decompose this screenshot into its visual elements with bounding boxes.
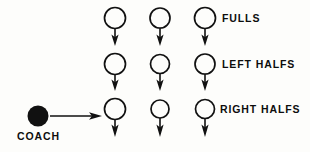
row-fulls <box>105 8 216 47</box>
player-circle[interactable] <box>195 8 216 29</box>
coach-label: COACH <box>17 131 60 142</box>
diagram-canvas: FULLS LEFT HALFS RIGHT HALFS COACH <box>0 0 310 152</box>
coach-dot[interactable] <box>28 106 49 127</box>
movement-arrow-down <box>156 28 163 46</box>
player-circle[interactable] <box>195 54 215 74</box>
coach-direction-arrow <box>50 112 102 120</box>
player-circle[interactable] <box>151 55 170 74</box>
row-right-halfs <box>105 99 215 138</box>
player-circle[interactable] <box>196 100 215 119</box>
movement-arrow-down <box>156 74 163 91</box>
player-circle[interactable] <box>105 8 126 29</box>
player-circle[interactable] <box>105 54 126 75</box>
row-label-left-halfs: LEFT HALFS <box>222 59 295 70</box>
row-label-fulls: FULLS <box>222 13 260 24</box>
row-label-right-halfs: RIGHT HALFS <box>220 104 300 115</box>
player-circle[interactable] <box>105 99 126 120</box>
player-circle[interactable] <box>150 8 170 28</box>
coach-marker-group <box>28 106 103 127</box>
player-circle[interactable] <box>151 100 169 118</box>
movement-arrow-down <box>111 75 118 91</box>
movement-arrow-down <box>111 120 118 137</box>
movement-arrow-down <box>201 74 208 91</box>
movement-arrow-down <box>201 29 208 46</box>
row-left-halfs <box>105 54 216 92</box>
movement-arrow-down <box>156 118 163 137</box>
movement-arrow-down <box>111 29 118 46</box>
movement-arrow-down <box>201 119 208 137</box>
